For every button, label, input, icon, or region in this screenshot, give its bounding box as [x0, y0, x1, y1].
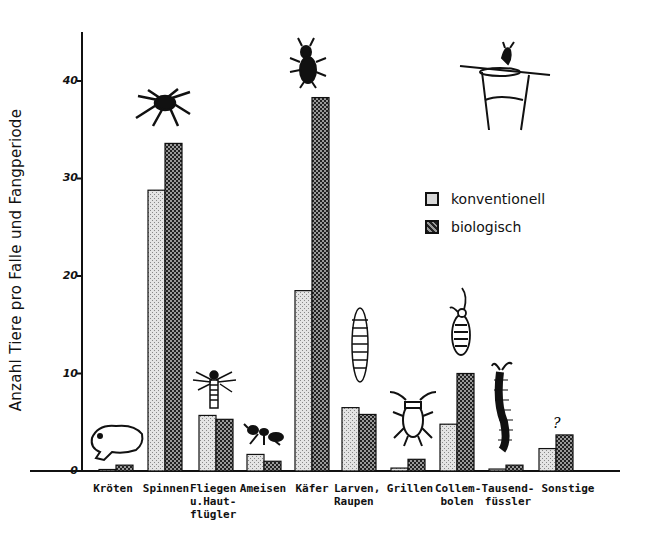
bar-konventionell [148, 190, 165, 471]
y-tick-label: 30 [50, 171, 78, 184]
dark-pattern-swatch-icon [425, 220, 439, 234]
category-label: Sonstige [538, 482, 598, 495]
y-tick-label: 10 [50, 367, 78, 380]
legend-label: konventionell [451, 191, 545, 207]
millipede-icon [492, 363, 513, 450]
bar-biologisch [312, 98, 329, 471]
ant-icon [244, 424, 283, 445]
spider-icon [136, 89, 190, 126]
bar-konventionell [199, 415, 216, 471]
bar-biologisch [165, 143, 182, 471]
springtail-icon [450, 288, 470, 355]
legend-item-konventionell: konventionell [425, 185, 545, 213]
fly-icon [193, 371, 236, 408]
bar-biologisch [359, 414, 376, 471]
y-axis-label: Anzahl Tiere pro Falle und Fangperiode [7, 60, 27, 460]
category-label: Tausend- füssler [478, 482, 538, 508]
bar-konventionell [99, 470, 116, 472]
y-tick-label: 20 [50, 269, 78, 282]
legend-item-biologisch: biologisch [425, 213, 545, 241]
bar-biologisch [457, 374, 474, 472]
bar-konventionell [247, 454, 264, 471]
toad-icon [92, 426, 143, 460]
bar-konventionell [489, 469, 506, 471]
bar-biologisch [264, 461, 281, 471]
category-label: Collem- bolen [435, 482, 479, 508]
bar-biologisch [556, 435, 573, 471]
bar-biologisch [116, 465, 133, 471]
larva-icon [352, 308, 368, 382]
legend-label: biologisch [451, 219, 521, 235]
question-mark-annotation: ? [553, 415, 561, 431]
bar-konventionell [391, 468, 408, 471]
pitfall-trap-icon [460, 42, 550, 130]
bar-biologisch [408, 459, 425, 471]
cricket-icon [390, 392, 436, 446]
category-label: Larven, Raupen [334, 482, 384, 508]
beetle-icon [290, 38, 326, 88]
bar-konventionell [295, 291, 312, 471]
light-pattern-swatch-icon [425, 192, 439, 206]
bar-konventionell [539, 449, 556, 471]
category-label: Kröten [88, 482, 138, 495]
category-label: Ameisen [238, 482, 288, 495]
category-label: Fliegen u.Haut- flügler [190, 482, 240, 521]
bar-konventionell [440, 424, 457, 471]
bar-konventionell [342, 408, 359, 471]
y-tick-label: 40 [50, 74, 78, 87]
y-tick-label: 0 [50, 464, 78, 477]
category-label: Spinnen [138, 482, 194, 495]
legend: konventionell biologisch [425, 185, 545, 241]
category-label: Käfer [291, 482, 333, 495]
category-label: Grillen [385, 482, 435, 495]
bar-biologisch [506, 465, 523, 471]
bar-chart: ? [0, 0, 659, 542]
bar-biologisch [216, 419, 233, 471]
